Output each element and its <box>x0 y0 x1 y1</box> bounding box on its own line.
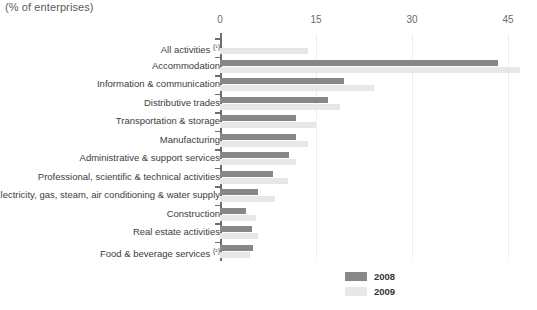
bar-row: Construction <box>220 205 537 224</box>
bar-2009 <box>220 122 316 128</box>
bar-2008 <box>220 189 258 195</box>
bar-2009 <box>220 85 374 91</box>
bar-2009 <box>220 48 308 54</box>
bar-2008 <box>220 115 296 121</box>
bar-2008 <box>220 245 253 251</box>
bar-2009 <box>220 196 275 202</box>
bar-2009 <box>220 215 256 221</box>
bar-chart: (% of enterprises) 0153045 All activitie… <box>0 0 537 310</box>
bar-2009 <box>220 67 520 73</box>
x-tick-label: 15 <box>310 14 321 25</box>
legend-swatch <box>345 287 367 296</box>
bar-2008 <box>220 78 344 84</box>
bar-2008 <box>220 171 273 177</box>
bar-2009 <box>220 252 250 258</box>
legend-label: 2008 <box>374 271 395 282</box>
category-label: Real estate activities <box>0 223 220 242</box>
bar-row: Food & beverage services (²) <box>220 242 537 261</box>
category-label: Food & beverage services (²) <box>0 242 220 264</box>
bar-2009 <box>220 178 288 184</box>
bar-2009 <box>220 159 296 165</box>
x-tick-label: 30 <box>406 14 417 25</box>
bar-row: Distributive trades <box>220 94 537 113</box>
chart-legend: 20082009 <box>345 270 395 300</box>
legend-label: 2009 <box>374 286 395 297</box>
bar-2008 <box>220 152 289 158</box>
category-label: Electricity, gas, steam, air conditionin… <box>0 186 220 205</box>
bar-row: Information & communication <box>220 75 537 94</box>
category-label: Professional, scientific & technical act… <box>0 168 220 187</box>
legend-item: 2008 <box>345 270 395 283</box>
category-label: Information & communication <box>0 75 220 94</box>
x-tick-label: 0 <box>217 14 223 25</box>
bar-row: Real estate activities <box>220 223 537 242</box>
bar-2008 <box>220 226 252 232</box>
plot-area: 0153045 All activities (¹)AccommodationI… <box>220 36 508 258</box>
bar-2009 <box>220 141 308 147</box>
bar-row: Transportation & storage <box>220 112 537 131</box>
bar-2009 <box>220 233 258 239</box>
bar-row: Manufacturing <box>220 131 537 150</box>
x-tick-label: 45 <box>502 14 513 25</box>
category-label: Distributive trades <box>0 94 220 113</box>
legend-item: 2009 <box>345 285 395 298</box>
bar-2009 <box>220 104 340 110</box>
category-label: Construction <box>0 205 220 224</box>
bar-row: All activities (¹) <box>220 38 537 57</box>
bar-row: Professional, scientific & technical act… <box>220 168 537 187</box>
category-label: Transportation & storage <box>0 112 220 131</box>
legend-swatch <box>345 272 367 281</box>
bar-2008 <box>220 208 246 214</box>
bar-2008 <box>220 97 328 103</box>
bar-row: Administrative & support services <box>220 149 537 168</box>
chart-title: (% of enterprises) <box>5 1 94 13</box>
category-label: Accommodation <box>0 57 220 76</box>
bar-2008 <box>220 60 498 66</box>
bar-2008 <box>220 134 296 140</box>
bar-row: Electricity, gas, steam, air conditionin… <box>220 186 537 205</box>
category-label: Administrative & support services <box>0 149 220 168</box>
category-label: Manufacturing <box>0 131 220 150</box>
bar-row: Accommodation <box>220 57 537 76</box>
